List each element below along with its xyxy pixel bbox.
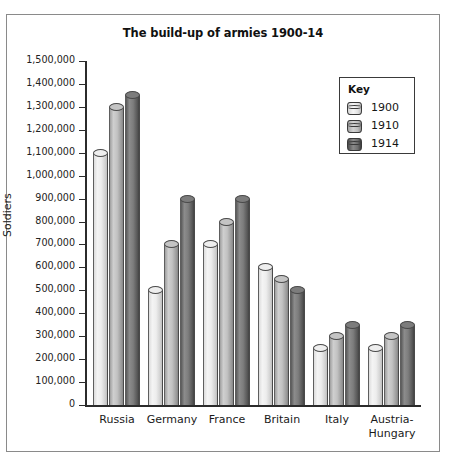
- bar-body: [258, 267, 273, 405]
- y-tick-label: 800,000: [35, 215, 75, 226]
- bar-russia-1900[interactable]: [93, 153, 108, 405]
- y-tick: 1,000,000: [79, 176, 85, 177]
- bar-cap-ellipse: [368, 344, 383, 352]
- y-tick-label: 1,400,000: [26, 77, 75, 88]
- bar-germany-1910[interactable]: [164, 244, 179, 405]
- bar-austria--hungary-1900[interactable]: [368, 348, 383, 405]
- y-tick: 400,000: [79, 313, 85, 314]
- y-tick-label: 1,500,000: [26, 54, 75, 65]
- bar-cap-ellipse: [313, 344, 328, 352]
- y-tick: 800,000: [79, 222, 85, 223]
- bar-body: [203, 244, 218, 405]
- bar-body: [148, 290, 163, 405]
- bar-germany-1900[interactable]: [148, 290, 163, 405]
- bar-britain-1914[interactable]: [290, 290, 305, 405]
- bar-body: [368, 348, 383, 405]
- bar-cap-ellipse: [235, 195, 250, 203]
- bar-austria--hungary-1910[interactable]: [384, 336, 399, 405]
- bar-body: [125, 95, 140, 405]
- y-tick-label: 400,000: [35, 306, 75, 317]
- bar-cap-ellipse: [345, 321, 360, 329]
- y-tick-label: 1,300,000: [26, 100, 75, 111]
- legend-label: 1914: [371, 137, 399, 150]
- bar-body: [384, 336, 399, 405]
- y-tick-label: 1,000,000: [26, 169, 75, 180]
- y-tick-label: 600,000: [35, 260, 75, 271]
- bar-cap-ellipse: [219, 218, 234, 226]
- y-tick: 200,000: [79, 359, 85, 360]
- legend-label: 1910: [371, 119, 399, 132]
- bar-france-1910[interactable]: [219, 222, 234, 405]
- y-tick-label: 100,000: [35, 375, 75, 386]
- y-tick: 1,400,000: [79, 84, 85, 85]
- y-tick-label: 1,200,000: [26, 123, 75, 134]
- y-tick: 700,000: [79, 244, 85, 245]
- bar-germany-1914[interactable]: [180, 199, 195, 405]
- bar-italy-1914[interactable]: [345, 325, 360, 405]
- x-axis-labels: RussiaGermanyFranceBritainItalyAustria- …: [87, 413, 427, 459]
- bar-cap-ellipse: [180, 195, 195, 203]
- bar-group: [258, 61, 306, 405]
- bar-russia-1914[interactable]: [125, 95, 140, 405]
- bar-body: [329, 336, 344, 405]
- legend-key-box: Key 190019101914: [339, 77, 415, 154]
- y-tick-label: 1,100,000: [26, 146, 75, 157]
- y-axis-label: Soldiers: [1, 193, 14, 237]
- chart-frame: The build-up of armies 1900-14 Soldiers …: [6, 14, 440, 452]
- y-tick-label: 200,000: [35, 352, 75, 363]
- y-tick: 100,000: [79, 382, 85, 383]
- bar-body: [235, 199, 250, 405]
- y-tick-label: 900,000: [35, 192, 75, 203]
- y-tick: 1,300,000: [79, 107, 85, 108]
- legend-cylinder-icon: [347, 102, 362, 115]
- bar-britain-1900[interactable]: [258, 267, 273, 405]
- y-tick-label: 500,000: [35, 283, 75, 294]
- y-tick: 1,200,000: [79, 130, 85, 131]
- chart-title: The build-up of armies 1900-14: [7, 26, 439, 40]
- y-tick: 1,100,000: [79, 153, 85, 154]
- legend-title: Key: [348, 83, 370, 95]
- bar-italy-1910[interactable]: [329, 336, 344, 405]
- bar-britain-1910[interactable]: [274, 279, 289, 405]
- bar-cap-ellipse: [109, 103, 124, 111]
- bar-body: [290, 290, 305, 405]
- y-tick: 900,000: [79, 199, 85, 200]
- y-tick-label: 0: [69, 398, 75, 409]
- bar-body: [219, 222, 234, 405]
- bar-cap-ellipse: [93, 149, 108, 157]
- bar-body: [93, 153, 108, 405]
- bar-austria--hungary-1914[interactable]: [400, 325, 415, 405]
- bar-body: [180, 199, 195, 405]
- y-tick: 600,000: [79, 267, 85, 268]
- legend-cylinder-icon: [347, 138, 362, 151]
- bar-body: [400, 325, 415, 405]
- bar-body: [345, 325, 360, 405]
- bar-body: [164, 244, 179, 405]
- bar-group: [203, 61, 251, 405]
- bar-cap-ellipse: [400, 321, 415, 329]
- x-axis-label-austria--hungary: Austria- Hungary: [360, 413, 424, 441]
- y-tick: 1,500,000: [79, 61, 85, 62]
- y-tick-label: 300,000: [35, 329, 75, 340]
- x-axis-line: [85, 405, 421, 407]
- bar-group: [93, 61, 141, 405]
- bar-body: [109, 107, 124, 405]
- legend-cylinder-icon: [347, 120, 362, 133]
- y-tick-label: 700,000: [35, 237, 75, 248]
- bar-body: [274, 279, 289, 405]
- bar-italy-1900[interactable]: [313, 348, 328, 405]
- bar-russia-1910[interactable]: [109, 107, 124, 405]
- bar-group: [148, 61, 196, 405]
- y-tick: 300,000: [79, 336, 85, 337]
- bar-body: [313, 348, 328, 405]
- bar-france-1914[interactable]: [235, 199, 250, 405]
- legend-label: 1900: [371, 101, 399, 114]
- bar-france-1900[interactable]: [203, 244, 218, 405]
- y-tick: 500,000: [79, 290, 85, 291]
- bar-cap-ellipse: [274, 275, 289, 283]
- y-tick: 0: [79, 405, 85, 406]
